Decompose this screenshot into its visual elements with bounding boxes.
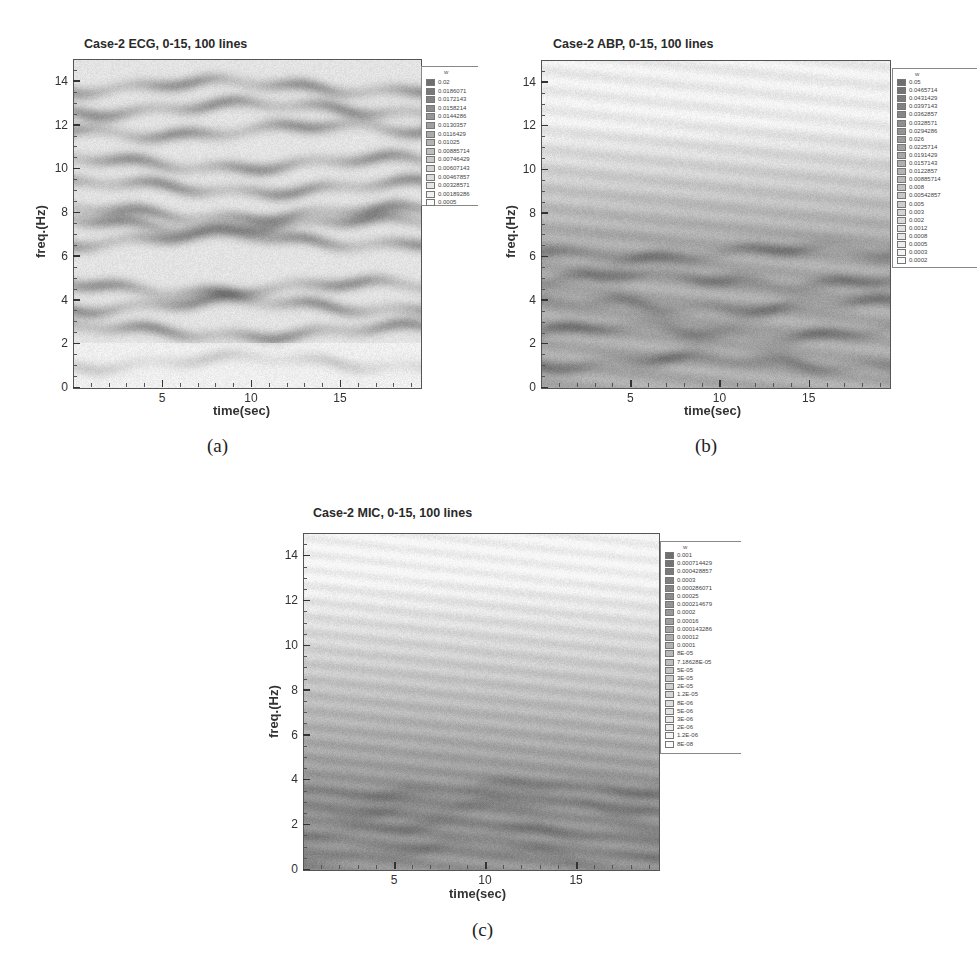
legend-swatch xyxy=(897,192,906,199)
legend-swatch xyxy=(426,105,435,112)
y-minor-tick xyxy=(541,245,545,246)
legend-swatch xyxy=(665,560,674,567)
legend-value: 3E-06 xyxy=(677,716,693,723)
legend-value: 0.0397143 xyxy=(909,103,937,110)
x-minor-tick xyxy=(376,383,377,387)
legend-entry: 0.0157143 xyxy=(897,160,937,167)
y-tick-label: 4 xyxy=(48,293,68,307)
legend-entry: 7.18628E-05 xyxy=(665,659,711,666)
legend-value: 0.0362857 xyxy=(909,111,937,118)
legend-entry: 0.00542857 xyxy=(897,192,941,199)
y-minor-tick xyxy=(541,191,545,192)
y-minor-tick xyxy=(303,623,307,624)
x-minor-tick xyxy=(595,383,596,387)
y-minor-tick xyxy=(73,201,77,202)
legend-entry: 5E-06 xyxy=(665,708,693,715)
legend-entry: 0.005 xyxy=(897,201,924,208)
legend-value: 0.0186071 xyxy=(438,88,466,95)
y-minor-tick xyxy=(73,289,77,290)
y-tick-mark xyxy=(303,869,310,871)
y-minor-tick xyxy=(303,533,307,534)
legend-entry: 1.2E-06 xyxy=(665,732,698,739)
x-minor-tick xyxy=(521,865,522,869)
chart-title: Case-2 ABP, 0-15, 100 lines xyxy=(553,37,714,51)
legend-swatch xyxy=(665,585,674,592)
y-minor-tick xyxy=(303,544,307,545)
legend-value: 0.0294286 xyxy=(909,128,937,135)
x-minor-tick xyxy=(180,383,181,387)
legend-value: 0.002 xyxy=(909,217,924,224)
x-minor-tick xyxy=(755,383,756,387)
x-minor-tick xyxy=(198,383,199,387)
legend-entry: 0.00189286 xyxy=(426,191,470,198)
legend-swatch xyxy=(665,650,674,657)
y-minor-tick xyxy=(541,104,545,105)
legend-value: 8E-05 xyxy=(677,650,693,657)
legend-value: 0.000143286 xyxy=(677,626,712,633)
legend-entry: 0.00467857 xyxy=(426,174,470,181)
x-minor-tick xyxy=(503,865,504,869)
legend-swatch xyxy=(665,716,674,723)
chart-title: Case-2 ECG, 0-15, 100 lines xyxy=(84,37,247,51)
colorbar-legend: w0.020.01860710.01721430.01582140.014428… xyxy=(421,66,478,206)
legend-value: 2E-05 xyxy=(677,683,693,690)
legend-entry: 5E-05 xyxy=(665,667,693,674)
legend-value: 2E-06 xyxy=(677,724,693,731)
legend-entry: 0.000714429 xyxy=(665,560,712,567)
spectrogram-plot xyxy=(541,60,891,389)
y-minor-tick xyxy=(541,234,545,235)
x-minor-tick xyxy=(827,383,828,387)
legend-value: 0.000428857 xyxy=(677,568,712,575)
y-tick-label: 10 xyxy=(48,161,68,175)
legend-value: 8E-06 xyxy=(677,700,693,707)
y-minor-tick xyxy=(303,768,307,769)
legend-swatch xyxy=(426,113,435,120)
y-minor-tick xyxy=(303,567,307,568)
y-minor-tick xyxy=(303,712,307,713)
legend-entry: 0.00016 xyxy=(665,618,699,625)
y-tick-label: 2 xyxy=(516,336,536,350)
colorbar-legend: w0.0010.0007144290.0004288570.00030.0002… xyxy=(660,541,741,754)
x-tick-mark xyxy=(251,380,253,387)
legend-swatch xyxy=(665,659,674,666)
legend-swatch xyxy=(665,642,674,649)
legend-entry: 0.000286071 xyxy=(665,585,712,592)
legend-swatch xyxy=(426,199,435,206)
legend-value: 0.0012 xyxy=(909,225,927,232)
y-minor-tick xyxy=(303,667,307,668)
legend-swatch xyxy=(897,144,906,151)
y-minor-tick xyxy=(541,354,545,355)
legend-value: 0.000714429 xyxy=(677,560,712,567)
x-minor-tick xyxy=(412,865,413,869)
x-tick-mark xyxy=(576,862,578,869)
x-minor-tick xyxy=(126,383,127,387)
legend-swatch xyxy=(897,225,906,232)
legend-value: 0.00012 xyxy=(677,634,699,641)
legend-swatch xyxy=(897,176,906,183)
legend-value: 0.00025 xyxy=(677,593,699,600)
legend-value: 5E-06 xyxy=(677,708,693,715)
legend-entry: 0.0002 xyxy=(665,609,695,616)
y-minor-tick xyxy=(73,70,77,71)
y-tick-mark xyxy=(73,255,80,257)
legend-entry: 8E-06 xyxy=(665,700,693,707)
y-minor-tick xyxy=(73,267,77,268)
legend-swatch xyxy=(665,675,674,682)
x-minor-tick xyxy=(321,865,322,869)
y-tick-label: 14 xyxy=(278,548,298,562)
legend-swatch xyxy=(426,174,435,181)
legend-value: 0.0465714 xyxy=(909,87,937,94)
colorbar-legend: w0.050.04657140.04314290.03971430.036285… xyxy=(892,68,977,268)
x-minor-tick xyxy=(269,383,270,387)
x-minor-tick xyxy=(215,383,216,387)
legend-swatch xyxy=(897,120,906,127)
legend-entry: 0.0003 xyxy=(897,249,927,256)
legend-swatch xyxy=(897,184,906,191)
y-minor-tick xyxy=(303,701,307,702)
y-tick-label: 2 xyxy=(278,817,298,831)
legend-value: 0.05 xyxy=(909,79,921,86)
x-tick-mark xyxy=(340,380,342,387)
panel-label: (b) xyxy=(695,435,717,457)
y-minor-tick xyxy=(303,723,307,724)
legend-swatch xyxy=(897,160,906,167)
